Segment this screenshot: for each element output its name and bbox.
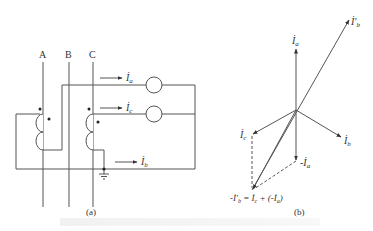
- phasor-label-neg-ia: -İa: [300, 157, 311, 170]
- label-ia: İa: [125, 72, 133, 85]
- phase-b-label: B: [65, 49, 72, 60]
- label-ic: İc: [125, 102, 133, 115]
- panel-a-label: (a): [86, 207, 96, 217]
- ct-coil-left: [36, 114, 43, 150]
- polarity-dots: [39, 108, 106, 171]
- label-ib: İb: [140, 156, 148, 169]
- phasor-label-ib-prime: İ'b: [350, 16, 360, 29]
- phasor-equation: -İ'b = İc + (-İa): [230, 193, 283, 204]
- phasor-ib: [296, 110, 341, 137]
- phasor-label-ic: İc: [239, 129, 247, 142]
- phasor-label-ia: İa: [291, 35, 299, 48]
- phase-c-label: C: [89, 49, 96, 60]
- ammeter-a: [146, 77, 162, 93]
- faded-caption: [60, 218, 320, 226]
- ammeter-c: [146, 106, 162, 122]
- phasor-label-ib: İb: [343, 135, 351, 148]
- ct-coil-right: [86, 114, 93, 150]
- panel-b-label: (b): [294, 207, 305, 217]
- figure-canvas: A B C İa İc İb (a) İa İ'b İc İb -İa -İ'b…: [0, 0, 373, 231]
- phase-a-label: A: [39, 49, 47, 60]
- circuit-diagram: [16, 62, 195, 207]
